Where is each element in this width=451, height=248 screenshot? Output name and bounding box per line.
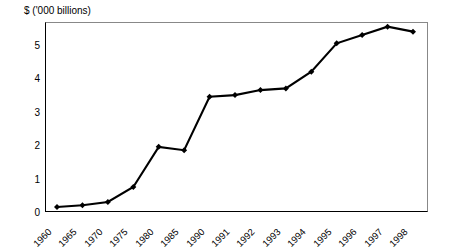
y-tick-label-0: 0 bbox=[24, 207, 40, 218]
x-tick-label-1996: 1996 bbox=[336, 226, 359, 248]
x-tick-label-1994: 1994 bbox=[285, 226, 308, 248]
y-tick-label-2: 2 bbox=[24, 140, 40, 151]
x-tick-label-1995: 1995 bbox=[311, 226, 334, 248]
x-tick-label-1985: 1985 bbox=[158, 226, 181, 248]
x-tick-label-1975: 1975 bbox=[107, 226, 130, 248]
y-tick-label-3: 3 bbox=[24, 106, 40, 117]
x-tick-label-1980: 1980 bbox=[133, 226, 156, 248]
x-tick-label-1965: 1965 bbox=[56, 226, 79, 248]
y-axis-tick-labels: 543210 bbox=[22, 22, 40, 212]
x-tick-label-1990: 1990 bbox=[183, 226, 206, 248]
x-tick-label-1993: 1993 bbox=[260, 226, 283, 248]
x-tick-label-1960: 1960 bbox=[31, 226, 54, 248]
x-tick-label-1998: 1998 bbox=[387, 226, 410, 248]
x-tick-label-1970: 1970 bbox=[82, 226, 105, 248]
x-tick-label-1997: 1997 bbox=[361, 226, 384, 248]
x-axis-tick-labels: 1960196519701975198019851990199119921993… bbox=[45, 212, 428, 248]
plot-frame bbox=[45, 22, 428, 212]
y-tick-label-5: 5 bbox=[24, 40, 40, 51]
y-tick-label-4: 4 bbox=[24, 73, 40, 84]
x-tick-label-1992: 1992 bbox=[234, 226, 257, 248]
chart-screenshot: $ ('000 billions) 543210 196019651970197… bbox=[0, 0, 451, 248]
y-axis-caption: $ ('000 billions) bbox=[24, 5, 91, 16]
y-tick-label-1: 1 bbox=[24, 173, 40, 184]
x-tick-label-1991: 1991 bbox=[209, 226, 232, 248]
